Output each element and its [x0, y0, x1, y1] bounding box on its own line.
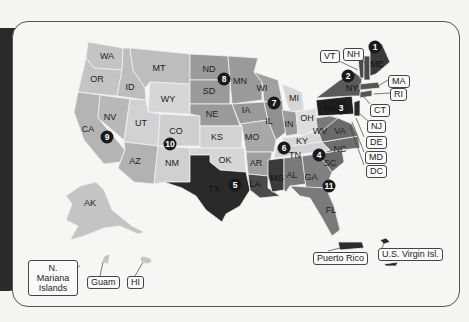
label-tx: TX	[208, 184, 220, 194]
label-or: OR	[90, 74, 104, 84]
svg-text:7: 7	[272, 98, 277, 108]
svg-text:6: 6	[282, 143, 287, 153]
label-ok: OK	[218, 155, 231, 165]
callout-hi: HI	[127, 276, 144, 289]
marker-1[interactable]: 1	[369, 41, 382, 54]
label-il: IL	[265, 116, 273, 126]
label-fl: FL	[326, 205, 337, 215]
state-ct[interactable]	[360, 90, 372, 98]
marker-10[interactable]: 10	[164, 138, 177, 151]
callout-nj: NJ	[367, 120, 386, 133]
callout-md: MD	[365, 151, 387, 164]
label-az: AZ	[129, 156, 141, 166]
callout-de: DE	[366, 136, 387, 149]
island-puerto-rico[interactable]	[338, 242, 364, 250]
island-hi[interactable]	[140, 256, 152, 264]
marker-8[interactable]: 8	[218, 73, 231, 86]
label-la: LA	[249, 179, 260, 189]
label-id: ID	[126, 82, 136, 92]
label-nm: NM	[165, 158, 179, 168]
label-nc: NC	[334, 144, 347, 154]
svg-text:9: 9	[105, 132, 110, 142]
svg-text:3: 3	[339, 103, 344, 113]
callout-ct: CT	[370, 104, 390, 117]
callout-ma: MA	[388, 75, 410, 88]
label-ks: KS	[211, 132, 223, 142]
callout-vt: VT	[320, 50, 340, 63]
callout-ri: RI	[390, 88, 407, 101]
state-ak[interactable]	[66, 182, 144, 240]
svg-text:4: 4	[317, 150, 322, 160]
island-usvi[interactable]	[380, 238, 390, 244]
svg-text:8: 8	[222, 74, 227, 84]
callout-usvi: U.S. Virgin Isl.	[378, 248, 443, 261]
state-nj[interactable]	[354, 100, 360, 116]
label-sd: SD	[203, 86, 216, 96]
svg-text:5: 5	[233, 180, 238, 190]
label-ms: MS	[270, 173, 284, 183]
callout-n-mariana-islands: N. Mariana Islands	[28, 260, 78, 296]
marker-5[interactable]: 5	[229, 179, 242, 192]
label-pa: PA	[324, 104, 335, 114]
marker-4[interactable]: 4	[313, 149, 326, 162]
svg-text:2: 2	[346, 71, 351, 81]
label-va: VA	[334, 126, 345, 136]
marker-2[interactable]: 2	[342, 70, 355, 83]
callout-puerto-rico: Puerto Rico	[313, 252, 368, 265]
label-mo: MO	[245, 132, 260, 142]
state-nh[interactable]	[364, 56, 370, 80]
label-mn: MN	[233, 76, 247, 86]
label-oh: OH	[300, 113, 314, 123]
label-ak: AK	[84, 198, 96, 208]
label-al: AL	[286, 170, 297, 180]
label-ca: CA	[82, 124, 95, 134]
label-ne: NE	[206, 109, 219, 119]
marker-3[interactable]: 3	[335, 102, 348, 115]
label-ut: UT	[135, 118, 147, 128]
callout-guam: Guam	[87, 276, 120, 289]
label-mi: MI	[289, 93, 299, 103]
callout-dc: DC	[366, 165, 387, 178]
label-nd: ND	[203, 64, 216, 74]
label-ky: KY	[296, 136, 308, 146]
svg-text:10: 10	[165, 139, 175, 149]
label-wv: WV	[313, 126, 328, 136]
state-ma[interactable]	[360, 82, 380, 90]
label-me: ME	[370, 59, 384, 69]
label-ia: IA	[242, 105, 251, 115]
label-mt: MT	[153, 63, 166, 73]
label-wy: WY	[161, 94, 176, 104]
marker-11[interactable]: 11	[323, 180, 336, 193]
island-usvi-2[interactable]	[384, 262, 398, 266]
label-co: CO	[169, 126, 183, 136]
svg-text:11: 11	[325, 181, 334, 191]
label-wa: WA	[100, 51, 114, 61]
marker-9[interactable]: 9	[101, 131, 114, 144]
label-ga: GA	[304, 172, 317, 182]
svg-text:1: 1	[373, 42, 378, 52]
label-nv: NV	[104, 112, 117, 122]
label-wi: WI	[257, 83, 268, 93]
label-sc: SC	[324, 158, 337, 168]
callout-nh: NH	[343, 48, 364, 61]
label-in: IN	[285, 119, 294, 129]
label-ar: AR	[250, 158, 263, 168]
marker-7[interactable]: 7	[268, 97, 281, 110]
label-tn: TN	[289, 150, 301, 160]
marker-6[interactable]: 6	[278, 142, 291, 155]
label-ny: NY	[346, 83, 359, 93]
